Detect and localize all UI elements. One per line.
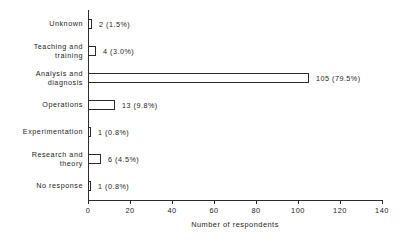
bar	[88, 100, 115, 110]
x-axis-tick-label: 20	[125, 206, 134, 215]
x-axis-tick	[172, 200, 173, 204]
x-axis-tick	[88, 200, 89, 204]
bar-value-label: 13 (9.8%)	[122, 100, 158, 109]
bar-value-label: 1 (0.8%)	[98, 181, 129, 190]
bar	[88, 154, 101, 164]
x-axis-tick-label: 80	[251, 206, 260, 215]
x-axis-tick	[340, 200, 341, 204]
bar-value-label: 6 (4.5%)	[108, 154, 139, 163]
category-label: Analysis and diagnosis	[0, 68, 83, 87]
bar-row: Research and theory 6 (4.5%)	[88, 145, 384, 172]
category-label: Experimentation	[0, 127, 83, 137]
x-axis-tick-label: 140	[375, 206, 389, 215]
x-axis-tick	[298, 200, 299, 204]
x-axis-tick-label: 60	[209, 206, 218, 215]
x-axis-tick	[130, 200, 131, 204]
category-label: Operations	[0, 100, 83, 110]
bar	[88, 127, 91, 137]
x-axis-title: Number of respondents	[88, 220, 382, 229]
bar-row: No response 1 (0.8%)	[88, 172, 384, 199]
bar	[88, 73, 309, 83]
x-axis-tick-label: 40	[167, 206, 176, 215]
bar	[88, 46, 96, 56]
x-axis-spine	[88, 200, 382, 201]
bar-value-label: 2 (1.5%)	[99, 19, 130, 28]
category-label: No response	[0, 181, 83, 191]
plot-area: Unknown 2 (1.5%) Teaching and training 4…	[88, 10, 384, 200]
category-label: Teaching and training	[0, 41, 83, 60]
x-axis-tick-label: 100	[291, 206, 305, 215]
bar-value-label: 105 (79.5%)	[316, 73, 361, 82]
bar-value-label: 4 (3.0%)	[103, 46, 134, 55]
x-axis-tick	[382, 200, 383, 204]
bar-value-label: 1 (0.8%)	[98, 127, 129, 136]
x-axis-tick-label: 0	[86, 206, 91, 215]
bar-row: Analysis and diagnosis 105 (79.5%)	[88, 64, 384, 91]
category-label: Unknown	[0, 19, 83, 29]
bar	[88, 19, 92, 29]
bar-chart: Unknown 2 (1.5%) Teaching and training 4…	[0, 0, 404, 241]
x-axis-tick-label: 120	[333, 206, 347, 215]
bar	[88, 181, 91, 191]
bar-row: Teaching and training 4 (3.0%)	[88, 37, 384, 64]
x-axis-tick	[256, 200, 257, 204]
x-axis-tick	[214, 200, 215, 204]
bar-row: Operations 13 (9.8%)	[88, 91, 384, 118]
bar-row: Experimentation 1 (0.8%)	[88, 118, 384, 145]
category-label: Research and theory	[0, 149, 83, 168]
bar-row: Unknown 2 (1.5%)	[88, 10, 384, 37]
